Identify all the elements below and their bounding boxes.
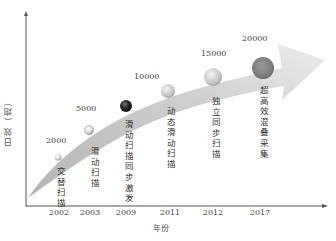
x-axis-arrow-icon: [322, 204, 328, 208]
x-tick-2002: 2002: [44, 208, 74, 217]
x-tick-2009: 2009: [111, 208, 141, 217]
y-axis-label: 日效（炮）: [3, 96, 17, 146]
value-label-2012: 15000: [201, 49, 226, 58]
method-label-2012: 独立同步扫描: [211, 96, 221, 160]
x-tick-2017: 2017: [245, 208, 275, 217]
x-axis-label: 年份: [146, 222, 176, 233]
x-tick-2012: 2012: [198, 208, 228, 217]
method-label-2011: 动态滑动扫描: [166, 106, 176, 170]
method-label-2003: 滑动扫描: [90, 146, 100, 188]
value-label-2003: 5000: [76, 104, 96, 113]
bubble-2003: [85, 126, 94, 135]
bubble-2011: [161, 84, 175, 98]
value-label-2017: 20000: [242, 34, 267, 43]
bubble-2017: [252, 57, 274, 79]
method-label-2017: 超高效混叠采集: [259, 85, 269, 159]
bubble-2002: [55, 154, 62, 161]
bubble-2009: [120, 100, 132, 112]
value-label-2002: 2000: [46, 136, 66, 145]
y-axis-arrow-icon: [24, 11, 28, 16]
bubble-2012: [204, 68, 222, 86]
x-tick-2011: 2011: [155, 208, 185, 217]
value-label-2011: 10000: [134, 72, 159, 81]
method-label-2002: 交替扫描: [56, 166, 66, 208]
x-tick-2003: 2003: [75, 208, 105, 217]
trend-arrow: [28, 44, 325, 198]
method-label-2009: 滑动扫描同步激发: [124, 119, 134, 204]
